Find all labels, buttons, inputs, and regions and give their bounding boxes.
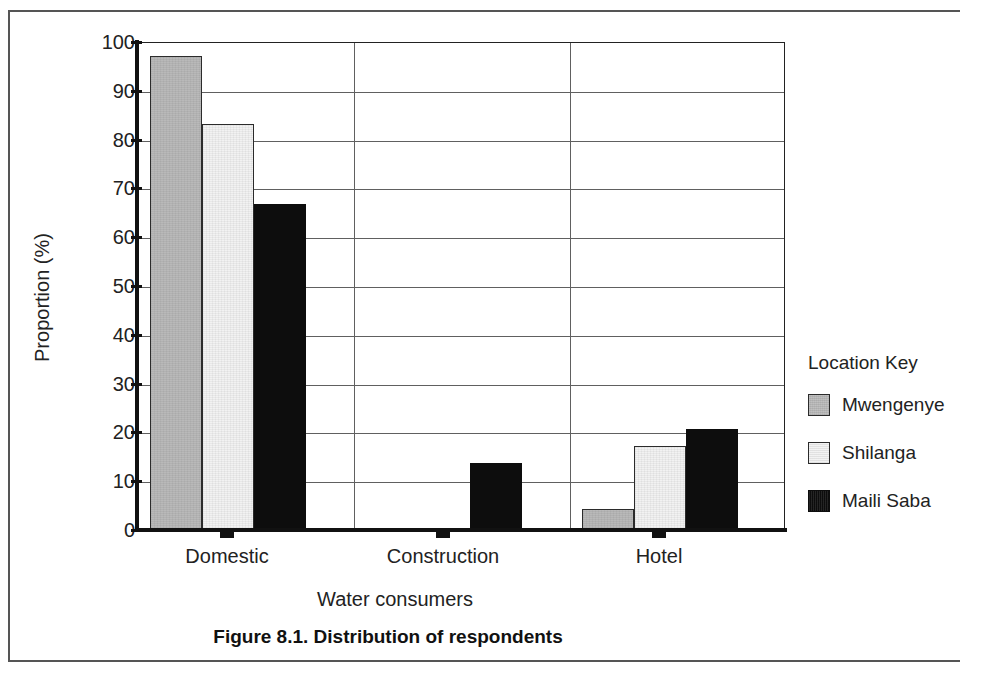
legend-item-maili-saba: Maili Saba [808, 488, 983, 514]
y-axis-tick-mark [131, 431, 142, 434]
plot-area [137, 42, 785, 530]
bar-domestic-shilanga [202, 124, 254, 529]
legend-swatch-icon [808, 394, 830, 416]
legend-title: Location Key [808, 352, 983, 374]
x-axis-tick-mark [220, 530, 234, 538]
y-axis-tick-label: 80 [91, 130, 135, 150]
y-axis-tick-label: 20 [91, 422, 135, 442]
x-axis-title: Water consumers [0, 588, 790, 611]
legend-item-label: Shilanga [842, 442, 916, 464]
y-axis-tick-mark [131, 139, 142, 142]
y-axis-tick-label: 60 [91, 227, 135, 247]
y-axis-tick-mark [131, 285, 142, 288]
x-axis-tick-label-hotel: Hotel [636, 545, 683, 567]
y-axis-tick-mark [131, 90, 142, 93]
legend-rows: MwengenyeShilangaMaili Saba [808, 392, 983, 514]
y-axis-tick-mark [131, 41, 142, 44]
y-axis-tick-label: 10 [91, 471, 135, 491]
figure-caption: Figure 8.1. Distribution of respondents [8, 626, 768, 648]
y-axis-tick-label: 0 [91, 520, 135, 540]
category-separator [570, 43, 571, 529]
y-axis-tick-mark [131, 383, 142, 386]
bar-hotel-maili-saba [686, 429, 738, 529]
y-axis-tick-label: 70 [91, 178, 135, 198]
legend-swatch-icon [808, 490, 830, 512]
bar-hotel-shilanga [634, 446, 686, 529]
gridline [138, 92, 784, 93]
y-axis-tick-label: 30 [91, 374, 135, 394]
bar-construction-maili-saba [470, 463, 522, 529]
x-axis-tick-mark [436, 530, 450, 538]
y-axis-ticks: 0102030405060708090100 [79, 0, 135, 688]
bar-domestic-mwengenye [150, 56, 202, 529]
bar-domestic-maili-saba [254, 204, 306, 529]
bar-hotel-mwengenye [582, 509, 634, 529]
legend-item-shilanga: Shilanga [808, 440, 983, 466]
legend-item-mwengenye: Mwengenye [808, 392, 983, 418]
y-axis-tick-mark [131, 334, 142, 337]
legend: Location Key MwengenyeShilangaMaili Saba [808, 352, 983, 536]
y-axis-tick-label: 100 [91, 32, 135, 52]
y-axis-tick-label: 50 [91, 276, 135, 296]
y-axis-tick-mark [131, 236, 142, 239]
legend-swatch-icon [808, 442, 830, 464]
y-axis-title: Proportion (%) [31, 198, 54, 398]
legend-item-label: Mwengenye [842, 394, 944, 416]
x-axis-tick-label-construction: Construction [387, 545, 499, 567]
y-axis-tick-mark [131, 480, 142, 483]
bar-chart: 0102030405060708090100 DomesticConstruct… [0, 0, 990, 688]
category-separator [354, 43, 355, 529]
y-axis-tick-label: 40 [91, 325, 135, 345]
x-axis-tick-mark [652, 530, 666, 538]
y-axis-tick-mark [131, 187, 142, 190]
x-axis-tick-label-domestic: Domestic [185, 545, 268, 567]
y-axis-tick-mark [131, 529, 142, 532]
y-axis-tick-label: 90 [91, 81, 135, 101]
legend-item-label: Maili Saba [842, 490, 931, 512]
